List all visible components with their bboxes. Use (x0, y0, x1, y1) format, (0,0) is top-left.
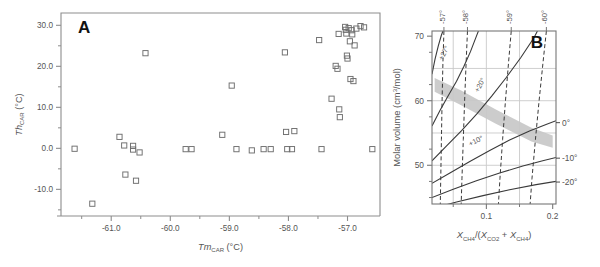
panel-a-data-point (370, 147, 375, 152)
panel-a-data-point (229, 83, 234, 88)
panel-b-x-axis-title-part: CH (463, 236, 472, 242)
panel-a-data-point (249, 148, 254, 153)
panel-b-y-axis-title-main: Molar volume (cm (391, 92, 402, 167)
panel-a-data-point (220, 132, 225, 137)
panel-b-isotherm-label: -59° (505, 10, 514, 24)
panel-b-x-axis-title-part: ) (528, 229, 531, 240)
panel-a-y-axis-title-var: Th (14, 125, 24, 136)
panel-a-y-tick-label: 30.0 (37, 21, 53, 30)
panel-a-letter: A (78, 18, 90, 37)
panel-a-data-point (133, 178, 138, 183)
panel-b-isochore-right-label: -10° (562, 153, 577, 163)
panel-a-data-point (282, 50, 287, 55)
panel-b-x-axis-title-part: + (499, 229, 510, 240)
panel-a-x-tick-label: -57.0 (338, 224, 357, 233)
panel-b-letter: B (531, 33, 543, 52)
panel-a-data-point (183, 147, 188, 152)
panel-a-data-point (292, 129, 297, 134)
panel-b-y-tick-label: 60 (415, 96, 425, 106)
panel-b-isochore-right-label: 0° (562, 118, 570, 128)
panel-b-y-axis-title: Molar volume (cm3/mol) (391, 68, 402, 167)
panel-b-x-axis-title-part: CO (487, 236, 496, 242)
panel-a-y-axis-title: ThCAR (°C) (14, 93, 25, 135)
panel-a-data-point (317, 37, 322, 42)
panel-b-x-axis-title-part: CH (516, 236, 525, 242)
panel-b-y-tick-label: 50 (415, 160, 425, 170)
panel-a-data-point (130, 147, 135, 152)
panel-a-data-point (268, 147, 273, 152)
figure-svg: 30.020.010.00.0-10.0-61.0-60.0-59.0-58.0… (0, 0, 600, 267)
panel-a-y-tick-label: 0.0 (42, 144, 54, 153)
panel-a-data-point (117, 134, 122, 139)
panel-b-isochore-curve (432, 158, 556, 198)
panel-a-y-axis-title-unit: (°C) (14, 93, 24, 112)
panel-a-data-point (137, 150, 142, 155)
panel-a-x-tick-label: -60.0 (161, 224, 180, 233)
panel-a-data-point (283, 129, 288, 134)
panel-a-data-point (336, 31, 341, 36)
panel-b-melting-isotherm-curve (530, 31, 546, 204)
panel-a-x-axis-title-sub: CAR (211, 247, 224, 253)
panel-a-y-tick-label: 10.0 (37, 103, 53, 112)
panel-b-y-axis-title-tail: /mol) (391, 68, 402, 89)
panel-a-data-point (337, 107, 342, 112)
panel-b-isochore-label: +10° (467, 133, 485, 148)
panel-b-isochore-label: +20° (472, 76, 487, 94)
panel-a-x-axis-title-var: Tm (198, 242, 212, 252)
panel-a-frame (61, 13, 380, 216)
panel-a-data-point (130, 143, 135, 148)
panel-a-data-point (90, 201, 95, 206)
panel-a-x-axis-title: TmCAR (°C) (198, 242, 243, 253)
panel-b-isotherm-label: -60° (540, 10, 549, 24)
panel-a-data-point (72, 146, 77, 151)
panel-b-y-tick-label: 70 (415, 31, 425, 41)
panel-b-isotherm-label: -57° (438, 10, 447, 24)
panel-b-isochore-right-label: -20° (562, 177, 577, 187)
panel-b-x-tick-label: 0.2 (547, 211, 559, 221)
panel-a-x-tick-label: -59.0 (220, 224, 239, 233)
panel-a-data-point (122, 143, 127, 148)
panel-a-data-point (143, 51, 148, 56)
panel-a-data-point (189, 147, 194, 152)
panel-a-data-point (337, 115, 342, 120)
panel-a-data-point (123, 172, 128, 177)
panel-a-x-axis-title-unit: (°C) (224, 242, 243, 252)
panel-b-melting-isotherm-curve (461, 31, 467, 204)
panel-a-data-point (234, 147, 239, 152)
panel-a-x-tick-label: -58.0 (279, 224, 298, 233)
panel-b-x-axis-title: XCH4/(XCO2 + XCH4) (456, 229, 532, 242)
panel-b-isotherm-label: -58° (461, 10, 470, 24)
panel-a-data-point (319, 147, 324, 152)
panel-a-y-tick-label: 20.0 (37, 62, 53, 71)
panel-a-data-point (261, 147, 266, 152)
panel-a-data-point (329, 96, 334, 101)
figure-container: 30.020.010.00.0-10.0-61.0-60.0-59.0-58.0… (0, 0, 600, 267)
panel-a-x-tick-label: -61.0 (102, 224, 121, 233)
panel-a-y-axis-title-sub: CAR (19, 112, 25, 125)
panel-a-y-tick-label: -10.0 (34, 185, 53, 194)
panel-b-x-tick-label: 0.1 (481, 211, 493, 221)
